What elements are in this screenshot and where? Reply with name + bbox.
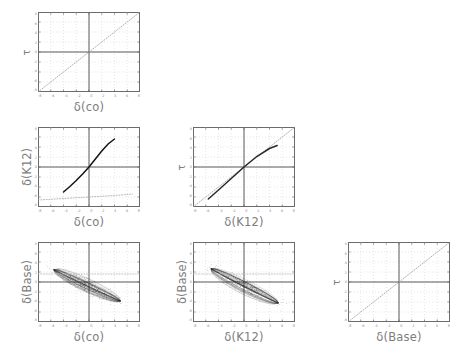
data-point	[110, 301, 111, 302]
data-point	[252, 284, 253, 285]
x-tick-label: 4	[269, 208, 271, 214]
data-point	[95, 290, 96, 291]
data-point	[271, 300, 272, 301]
x-tick-label: -4	[64, 208, 67, 214]
data-point	[75, 278, 76, 279]
data-point	[58, 269, 59, 270]
data-point	[89, 286, 90, 287]
data-point	[110, 304, 111, 305]
data-point	[121, 303, 122, 304]
data-point	[87, 288, 88, 289]
data-point	[233, 277, 234, 278]
data-point	[240, 276, 241, 277]
data-point	[234, 281, 235, 282]
data-point	[70, 284, 71, 285]
data-point	[233, 278, 234, 279]
data-point	[70, 277, 71, 278]
data-point	[243, 284, 244, 285]
data-point	[243, 290, 244, 291]
data-point	[222, 277, 223, 278]
data-point	[90, 291, 91, 292]
data-point	[70, 275, 71, 276]
data-point	[67, 277, 68, 278]
data-point	[208, 270, 209, 271]
data-point	[99, 289, 100, 290]
data-point	[77, 287, 78, 288]
data-point	[269, 298, 270, 299]
data-point	[67, 275, 68, 276]
data-point	[76, 287, 77, 288]
data-point	[97, 287, 98, 288]
data-point	[235, 284, 236, 285]
data-point	[101, 293, 102, 294]
x-tick-label: 0	[245, 208, 247, 214]
data-point	[80, 291, 81, 292]
data-point	[90, 283, 91, 284]
data-point	[99, 293, 100, 294]
data-point	[99, 291, 100, 292]
y-tick-label: -8	[34, 318, 37, 322]
data-point	[105, 294, 106, 295]
x-tick-label: 0	[400, 323, 402, 329]
data-point	[93, 296, 94, 297]
data-point	[248, 296, 249, 297]
data-point	[248, 292, 249, 293]
y-tick-labels: 86420-2-4-6-8	[341, 242, 347, 322]
y-tick-label: -2	[34, 175, 37, 179]
data-point	[246, 284, 247, 285]
plot-area	[348, 242, 450, 322]
y-tick-label: -8	[344, 318, 347, 322]
data-point	[221, 271, 222, 272]
x-tick-label: -2	[77, 323, 80, 329]
data-point	[252, 293, 253, 294]
data-point	[248, 290, 249, 291]
data-point	[246, 282, 247, 283]
y-tick-label: -6	[34, 309, 37, 313]
data-point	[52, 272, 53, 273]
data-point	[91, 286, 92, 287]
data-point	[115, 295, 116, 296]
data-point	[65, 273, 66, 274]
data-point	[69, 275, 70, 276]
data-point	[247, 286, 248, 287]
data-point	[276, 302, 277, 303]
data-point	[234, 288, 235, 289]
data-point	[240, 286, 241, 287]
data-point	[91, 283, 92, 284]
data-point	[85, 285, 86, 286]
y-tick-label: -8	[189, 203, 192, 207]
data-point	[242, 283, 243, 284]
x-tick-label: 2	[257, 208, 259, 214]
data-point	[88, 286, 89, 287]
data-point	[261, 291, 262, 292]
data-point	[74, 282, 75, 283]
data-point	[85, 283, 86, 284]
data-point	[252, 290, 253, 291]
data-point	[244, 287, 245, 288]
x-tick-label: -2	[77, 208, 80, 214]
x-tick-label: -8	[348, 323, 351, 329]
data-point	[270, 297, 271, 298]
data-point	[221, 278, 222, 279]
plot-area	[38, 242, 140, 322]
y-tick-label: -6	[189, 309, 192, 313]
data-point	[84, 290, 85, 291]
data-point	[66, 279, 67, 280]
data-point	[242, 288, 243, 289]
data-point	[82, 287, 83, 288]
data-point	[254, 294, 255, 295]
data-point	[229, 287, 230, 288]
data-point	[92, 285, 93, 286]
data-point	[80, 286, 81, 287]
y-tick-label: 4	[190, 261, 192, 265]
data-point	[232, 283, 233, 284]
data-point	[105, 293, 106, 294]
data-point	[90, 289, 91, 290]
y-tick-label: -8	[34, 88, 37, 92]
x-tick-label: 4	[114, 93, 116, 99]
data-point	[91, 281, 92, 282]
x-axis-label: δ(co)	[38, 100, 140, 114]
data-point	[271, 298, 272, 299]
data-point	[227, 272, 228, 273]
